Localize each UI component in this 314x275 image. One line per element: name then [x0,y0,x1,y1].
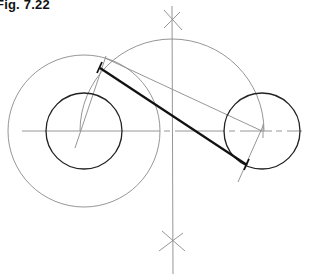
top-arc-cross-mark [164,10,182,30]
right-radius-line [238,126,263,182]
bottom-arc-cross-mark [159,231,185,251]
tangent-construction-diagram [0,0,314,275]
perpendicular-bisector [172,6,173,274]
tangent-line [100,68,247,165]
construction-line-to-right-center [105,58,262,131]
